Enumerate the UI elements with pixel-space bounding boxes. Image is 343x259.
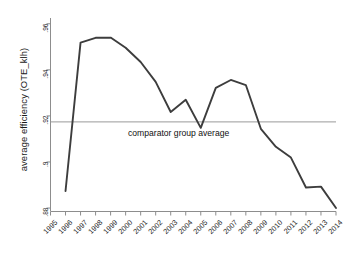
axes bbox=[47, 18, 337, 216]
series-line bbox=[66, 38, 336, 208]
data-series bbox=[66, 38, 336, 208]
y-axis-tick-label: .92 bbox=[41, 115, 48, 137]
y-axis-tick-label: .9 bbox=[41, 161, 48, 183]
y-axis-tick-label: .94 bbox=[41, 69, 48, 91]
comparator-group-average-label: comparator group average bbox=[128, 128, 229, 138]
y-axis-tick-label: .96 bbox=[41, 23, 48, 45]
chart-container: average efficiency (OTE_klh) .96.94.92.9… bbox=[0, 0, 343, 259]
x-axis-ticks bbox=[51, 212, 337, 216]
